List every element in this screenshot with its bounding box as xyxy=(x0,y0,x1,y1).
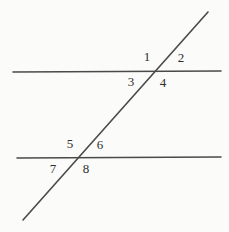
angle-label-7: 7 xyxy=(50,162,57,175)
angle-label-4: 4 xyxy=(160,76,167,89)
angle-label-2: 2 xyxy=(178,51,185,64)
transversal-line xyxy=(23,12,208,220)
angle-label-6: 6 xyxy=(97,138,104,151)
lower-parallel-line xyxy=(17,157,221,158)
angle-label-1: 1 xyxy=(144,50,151,63)
angle-label-8: 8 xyxy=(83,162,90,175)
upper-parallel-line xyxy=(13,71,221,72)
geometry-figure: 12345678 xyxy=(0,0,229,232)
diagram-canvas xyxy=(0,0,229,232)
angle-label-3: 3 xyxy=(128,75,135,88)
angle-label-5: 5 xyxy=(67,137,74,150)
